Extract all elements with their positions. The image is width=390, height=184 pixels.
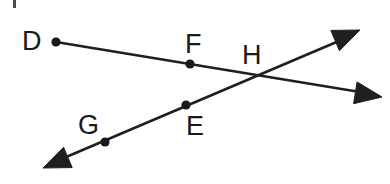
point-g-marker <box>100 137 109 146</box>
geometry-diagram-canvas: D F H G E <box>0 0 390 184</box>
point-d-marker <box>51 37 60 46</box>
scan-mark-artifact <box>13 0 16 8</box>
arrowhead-upper-right-icon <box>331 30 360 51</box>
label-f: F <box>185 29 202 59</box>
label-d: D <box>22 26 42 56</box>
arrowhead-lower-left-icon <box>43 147 72 168</box>
geometry-figure: D F H G E <box>0 0 390 184</box>
ray-d-through-f-and-h <box>56 42 372 94</box>
arrowhead-lower-right-icon <box>354 82 382 104</box>
label-g: G <box>78 110 99 140</box>
point-e-marker <box>181 100 190 109</box>
label-e: E <box>186 111 204 141</box>
point-f-marker <box>185 59 194 68</box>
label-h: H <box>242 40 262 70</box>
ray-through-g-e-and-h <box>52 35 353 163</box>
